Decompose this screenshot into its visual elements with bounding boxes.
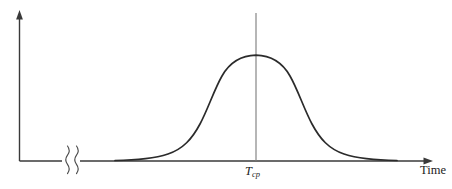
- peak-marker-label-base: T: [245, 164, 252, 178]
- plot-canvas: [0, 0, 452, 189]
- axis-break-gap: [62, 158, 80, 165]
- peak-marker-label: Tcp: [245, 164, 260, 179]
- x-axis-title: Time: [420, 163, 446, 178]
- figure-container: Time Tcp: [0, 0, 452, 189]
- y-axis-arrowhead: [16, 10, 23, 20]
- peak-marker-label-subscript: cp: [252, 169, 260, 179]
